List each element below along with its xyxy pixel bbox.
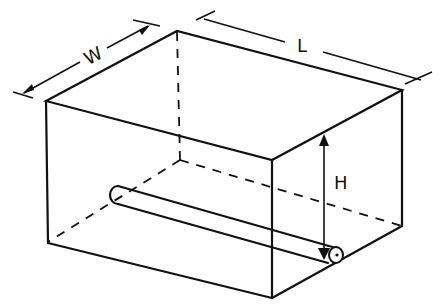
l-dim-line-right: [323, 52, 421, 80]
width-label: W: [80, 42, 106, 69]
edge-bottom-front: [48, 243, 272, 298]
visible-edges: [46, 31, 402, 298]
hidden-edge-vertical-back: [177, 32, 180, 160]
pipe-top-edge: [118, 186, 336, 248]
length-label: L: [297, 35, 307, 56]
w-arrow-right: [139, 25, 150, 35]
hidden-edge-bottom-back: [180, 160, 402, 226]
height-label: H: [334, 172, 348, 193]
w-arrow-left: [22, 84, 34, 94]
pipe-bottom-edge: [118, 204, 328, 263]
edge-front-left: [46, 101, 48, 243]
dimension-height: H: [318, 134, 348, 260]
pipe-center-dot: [335, 253, 338, 256]
pipe: [110, 186, 343, 263]
dimension-width: W: [13, 20, 160, 98]
hidden-edges: [48, 32, 402, 242]
h-arrow-top: [319, 134, 329, 146]
pipe-back-end: [110, 186, 118, 204]
l-dim-line-left: [204, 19, 285, 42]
hidden-edge-bottom-left: [48, 160, 180, 242]
w-extension-left: [13, 92, 33, 98]
w-extension-right: [133, 20, 160, 26]
l-extension-right: [405, 72, 432, 84]
dimension-length: L: [196, 11, 432, 84]
box-diagram: W L H: [0, 0, 443, 304]
